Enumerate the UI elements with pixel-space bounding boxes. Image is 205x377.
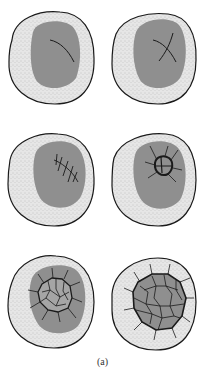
stage-3-cell [8, 134, 94, 226]
stage-4-cell [112, 134, 196, 226]
stage-6-cell [112, 258, 196, 350]
figure-diagram [0, 0, 205, 377]
stage-1-cell [9, 12, 94, 104]
stage-5-cell [8, 256, 94, 348]
figure-caption: (a) [0, 356, 205, 367]
stage-2-cell [112, 14, 196, 104]
